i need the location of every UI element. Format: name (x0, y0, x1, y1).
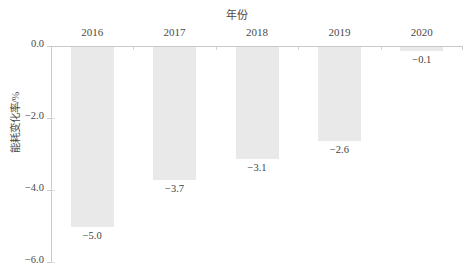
x-category-label: 2017 (135, 26, 215, 38)
y-tick-label: −2.0 (4, 110, 44, 121)
bar[interactable] (153, 47, 196, 180)
y-grid-stub (51, 190, 55, 191)
bar[interactable] (71, 47, 114, 227)
chart-title: 年份 (0, 6, 474, 22)
bar[interactable] (236, 47, 279, 159)
x-category-label: 2019 (299, 26, 379, 38)
y-tick-label: −4.0 (4, 182, 44, 193)
y-tick-mark (47, 46, 52, 47)
x-category-label: 2020 (382, 26, 462, 38)
bar-value-label: −0.1 (382, 54, 462, 65)
bar-value-label: −5.0 (52, 230, 132, 241)
axis-right-cap (462, 46, 463, 50)
y-axis-title: 能耗变化率/% (7, 73, 22, 173)
bar-value-label: −3.7 (135, 183, 215, 194)
bar[interactable] (318, 47, 361, 141)
x-tick-mark (133, 46, 134, 50)
x-tick-mark (298, 46, 299, 50)
bar-value-label: −2.6 (299, 144, 379, 155)
x-category-label: 2018 (217, 26, 297, 38)
y-tick-label: 0.0 (4, 38, 44, 49)
x-tick-mark (381, 46, 382, 50)
y-grid-stub (51, 118, 55, 119)
y-grid-stub (51, 262, 55, 263)
x-tick-mark (216, 46, 217, 50)
bar-value-label: −3.1 (217, 162, 297, 173)
bar[interactable] (400, 47, 443, 51)
x-category-label: 2016 (52, 26, 132, 38)
bar-chart: 年份 能耗变化率/% 0.0−2.0−4.0−6.0 2016201720182… (0, 0, 474, 279)
y-tick-label: −6.0 (4, 254, 44, 265)
